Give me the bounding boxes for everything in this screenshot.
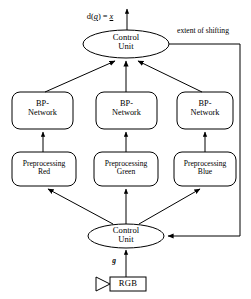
preprocessing-box-blue-shape xyxy=(174,152,236,186)
preprocessing-box-green-shape xyxy=(94,152,158,186)
bp-network-box-3-shape xyxy=(177,92,233,129)
bottom-control-unit-shape xyxy=(88,224,164,248)
arrow-control-to-prep-red xyxy=(48,189,113,224)
bp-network-box-1-shape xyxy=(12,92,73,129)
arrow-bp3-to-control xyxy=(138,61,202,92)
preprocessing-box-red-shape xyxy=(12,152,76,186)
bp-network-box-2-shape xyxy=(96,92,157,129)
arrow-bp1-to-control xyxy=(45,61,115,92)
top-control-unit-shape xyxy=(83,30,169,58)
architecture-diagram: d(g) = x extent of shifting Control Unit… xyxy=(0,0,251,299)
play-triangle-icon xyxy=(96,277,110,291)
rgb-source-box-shape xyxy=(110,277,146,291)
feedback-loop-path xyxy=(168,44,240,236)
arrow-control-to-prep-blue xyxy=(139,189,200,224)
diagram-canvas xyxy=(0,0,251,299)
